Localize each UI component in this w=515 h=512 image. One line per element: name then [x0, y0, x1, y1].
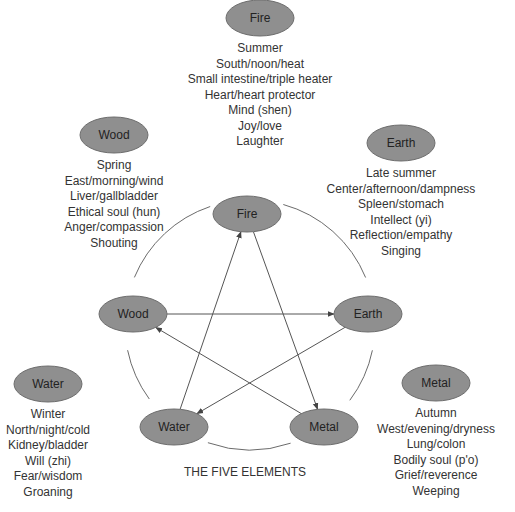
water-attribute: Fear/wisdom	[14, 469, 83, 483]
water-attribute: Groaning	[23, 485, 72, 499]
water-attribute: Winter	[31, 407, 66, 421]
inner-node-water: Water	[140, 409, 208, 445]
water-attribute: North/night/cold	[6, 423, 90, 437]
water-outer-label: Water	[32, 377, 64, 391]
controlling-arrow-fire-to-metal	[253, 232, 317, 410]
fire-attribute: Small intestine/triple heater	[188, 72, 333, 86]
wood-attribute: East/morning/wind	[65, 174, 164, 188]
outer-node-wood: WoodSpringEast/morning/windLiver/gallbla…	[64, 117, 163, 250]
outer-node-water: WaterWinterNorth/night/coldKidney/bladde…	[6, 366, 90, 499]
outer-node-fire: FireSummerSouth/noon/heatSmall intestine…	[188, 0, 333, 148]
water-attribute: Will (zhi)	[25, 454, 71, 468]
fire-attribute: Mind (shen)	[228, 103, 291, 117]
wood-inner-label: Wood	[117, 307, 148, 321]
inner-node-earth: Earth	[334, 296, 402, 332]
generating-arc-water-to-wood	[128, 350, 150, 399]
wood-attribute: Ethical soul (hun)	[68, 205, 161, 219]
metal-inner-label: Metal	[309, 420, 338, 434]
earth-attribute: Intellect (yi)	[370, 213, 431, 227]
wood-attribute: Anger/compassion	[64, 220, 163, 234]
wood-outer-label: Wood	[98, 128, 129, 142]
inner-node-metal: Metal	[290, 409, 358, 445]
metal-outer-label: Metal	[421, 376, 450, 390]
wood-attribute: Shouting	[90, 236, 137, 250]
fire-inner-label: Fire	[237, 207, 258, 221]
fire-attribute: Summer	[237, 41, 282, 55]
metal-attribute: Bodily soul (p'o)	[394, 453, 479, 467]
controlling-arrow-metal-to-wood	[156, 327, 302, 413]
fire-attribute: South/noon/heat	[216, 57, 305, 71]
inner-node-wood: Wood	[99, 296, 167, 332]
water-attribute: Kidney/bladder	[8, 438, 88, 452]
fire-attribute: Joy/love	[238, 119, 282, 133]
fire-outer-label: Fire	[250, 11, 271, 25]
water-inner-label: Water	[158, 420, 190, 434]
generating-arc-metal-to-water	[208, 443, 291, 450]
metal-attribute: Lung/colon	[407, 437, 466, 451]
earth-attribute: Late summer	[366, 166, 436, 180]
fire-attribute: Heart/heart protector	[205, 88, 316, 102]
earth-attribute: Singing	[381, 244, 421, 258]
five-elements-diagram: FireSummerSouth/noon/heatSmall intestine…	[0, 0, 515, 512]
metal-attribute: Grief/reverence	[395, 468, 478, 482]
outer-node-metal: MetalAutumnWest/evening/drynessLung/colo…	[377, 365, 495, 498]
metal-attribute: West/evening/dryness	[377, 422, 495, 436]
earth-attribute: Center/afternoon/dampness	[327, 182, 476, 196]
generating-arc-earth-to-metal	[350, 350, 373, 400]
earth-inner-label: Earth	[354, 307, 383, 321]
metal-attribute: Weeping	[412, 484, 459, 498]
diagram-title: THE FIVE ELEMENTS	[184, 465, 306, 479]
earth-attribute: Reflection/empathy	[350, 228, 453, 242]
earth-attribute: Spleen/stomach	[358, 197, 444, 211]
wood-attribute: Liver/gallbladder	[70, 189, 158, 203]
metal-attribute: Autumn	[415, 406, 456, 420]
wood-attribute: Spring	[97, 158, 132, 172]
earth-outer-label: Earth	[387, 136, 416, 150]
controlling-arrow-water-to-fire	[180, 232, 241, 410]
fire-attribute: Laughter	[236, 134, 283, 148]
controlling-arrow-earth-to-water	[197, 327, 345, 413]
inner-node-fire: Fire	[213, 196, 281, 232]
outer-node-earth: EarthLate summerCenter/afternoon/dampnes…	[327, 125, 476, 258]
